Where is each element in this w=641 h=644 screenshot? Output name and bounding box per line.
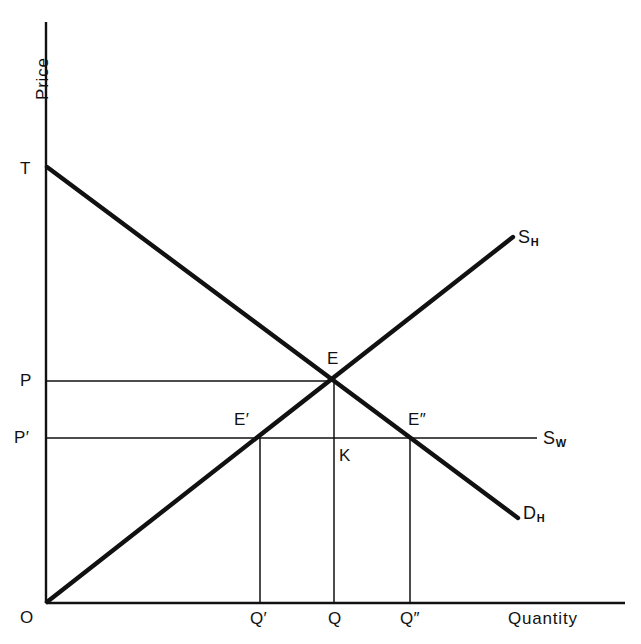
curve-label-dh: DH [523,504,544,522]
curve-label-sh-letter: S [518,227,530,247]
curve-label-sw-letter: S [543,428,555,448]
x-axis-label: Quantity [508,610,578,627]
curve-label-dh-letter: D [523,503,536,523]
point-label-E-prime: E′ [234,411,249,428]
curve-label-sw: SW [543,429,566,447]
curve-label-dh-subscript: H [537,512,545,524]
curve-dh-home-demand [47,167,518,518]
curve-label-sw-subscript: W [556,437,566,449]
curve-label-sh: SH [518,228,538,246]
curve-label-sh-subscript: H [531,236,539,248]
point-label-E-double-prime: E″ [408,411,426,428]
origin-label: O [20,609,34,626]
chart-canvas [0,0,641,644]
point-label-E: E [327,350,339,367]
quantity-tick-Q: Q [328,610,342,627]
price-tick-T: T [20,160,31,177]
y-axis-label: Price [34,57,51,100]
point-label-K: K [339,447,351,464]
quantity-tick-Q-double-prime: Q″ [400,610,420,627]
quantity-tick-Q-prime: Q′ [250,610,267,627]
curve-sh-home-supply [47,237,513,602]
price-tick-P-prime: P′ [14,429,29,446]
supply-demand-figure: Price Quantity O T P P′ Q′ Q Q″ E E′ E″ … [0,0,641,644]
price-tick-P: P [20,372,32,389]
